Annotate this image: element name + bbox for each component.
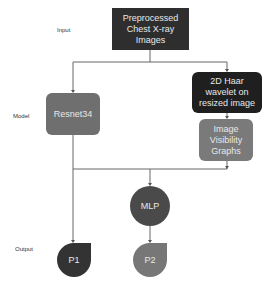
p2-label: P2 [144,255,155,266]
input-images-node: Preprocessed Chest X-ray Images [112,8,189,50]
stage-label-model: Model [13,113,29,119]
resnet-node: Resnet34 [46,93,100,135]
stage-label-output: Output [15,246,33,252]
visibility-graphs-label: Image Visibility Graphs [201,124,251,157]
mlp-node: MLP [130,186,170,226]
visibility-graphs-node: Image Visibility Graphs [199,119,253,161]
haar-wavelet-node: 2D Haar wavelet on resized image [192,72,262,113]
resnet-label: Resnet34 [54,109,93,120]
p1-label: P1 [68,255,79,266]
input-images-label: Preprocessed Chest X-ray Images [114,13,187,46]
haar-wavelet-label: 2D Haar wavelet on resized image [194,76,260,109]
p1-output-node: P1 [57,243,91,277]
mlp-label: MLP [141,201,160,212]
diagram-canvas: Input Model Output Preprocessed Chest X-… [0,0,271,284]
p2-output-node: P2 [133,243,167,277]
stage-label-input: Input [57,27,70,33]
